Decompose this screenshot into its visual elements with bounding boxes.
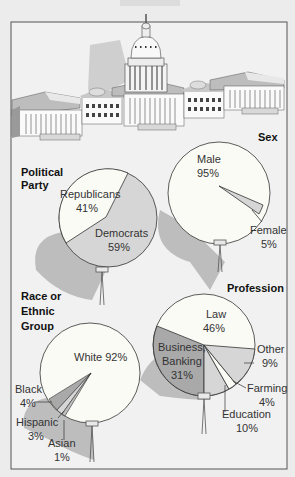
label-male: Male: [197, 153, 221, 165]
label-education: Education: [222, 408, 271, 420]
label-white: White 92%: [74, 351, 127, 363]
label-republicans: Republicans: [60, 188, 121, 200]
party-title-line2: Party: [21, 179, 49, 191]
label-business-line2: Banking: [162, 355, 202, 367]
congress-profile-infographic: Political Party Republicans 41% Democrat…: [0, 0, 295, 477]
value-hispanic: 3%: [28, 430, 44, 442]
race-title-line3: Group: [21, 320, 54, 332]
label-black: Black: [15, 383, 42, 395]
value-male: 95%: [197, 167, 219, 179]
label-hispanic: Hispanic: [16, 416, 59, 428]
label-business-line1: Business,: [158, 341, 206, 353]
value-female: 5%: [261, 238, 277, 250]
value-farming: 4%: [259, 396, 275, 408]
cut-off-heading: [120, 0, 180, 6]
value-democrats: 59%: [108, 241, 130, 253]
value-asian: 1%: [54, 451, 70, 463]
value-law: 46%: [203, 322, 225, 334]
value-education: 10%: [236, 422, 258, 434]
value-other: 9%: [262, 357, 278, 369]
label-female: Female: [250, 224, 287, 236]
label-asian: Asian: [48, 437, 76, 449]
profession-title: Profession: [227, 282, 284, 294]
party-title-line1: Political: [21, 166, 63, 178]
value-black: 4%: [20, 397, 36, 409]
sex-title: Sex: [258, 131, 278, 143]
race-title-line2: Ethnic: [21, 305, 55, 317]
value-republicans: 41%: [76, 202, 98, 214]
race-title-line1: Race or: [21, 290, 62, 302]
label-other: Other: [257, 343, 285, 355]
label-law: Law: [206, 308, 226, 320]
label-democrats: Democrats: [95, 227, 149, 239]
value-business: 31%: [171, 369, 193, 381]
label-farming: Farming: [247, 382, 287, 394]
